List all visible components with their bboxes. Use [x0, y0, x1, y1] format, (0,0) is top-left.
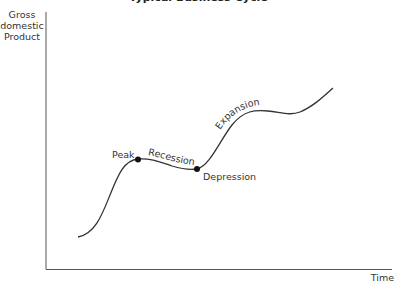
- depression-label: Depression: [203, 171, 256, 182]
- recession-label: Recession: [147, 146, 195, 167]
- business-cycle-diagram: Typical Business Cycle Gross domestic Pr…: [0, 0, 397, 284]
- peak-point: [135, 157, 141, 163]
- depression-point: [194, 166, 200, 172]
- recession-label-text: Recession: [147, 146, 195, 167]
- expansion-label-text: Expansion: [213, 96, 261, 131]
- gdp-curve: [78, 88, 333, 237]
- expansion-label: Expansion: [213, 96, 261, 131]
- diagram-canvas: Peak Recession Depression Expansion: [0, 0, 397, 284]
- peak-label: Peak: [112, 149, 135, 160]
